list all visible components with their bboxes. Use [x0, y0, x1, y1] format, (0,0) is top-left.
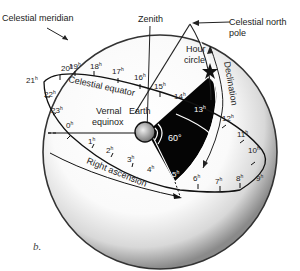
hour-circle-label-2: circle — [184, 55, 205, 65]
svg-text:21h: 21h — [26, 75, 38, 85]
figure-caption: b. — [33, 240, 41, 252]
earth-label: Earth — [129, 106, 151, 116]
zenith-label: Zenith — [138, 14, 163, 24]
celestial-north-pole-label: Celestial north — [229, 17, 287, 27]
angle-label: 60° — [168, 133, 182, 143]
hour-circle-label: Hour — [186, 44, 206, 54]
svg-text:22h: 22h — [44, 89, 56, 99]
vernal-equinox-label: Vernal — [96, 106, 122, 116]
celestial-meridian-label: Celestial meridian — [2, 13, 74, 23]
celestial-sphere-diagram: Celestial meridian Zenith Celestial nort… — [0, 0, 300, 271]
vernal-equinox-label-2: equinox — [92, 117, 124, 127]
celestial-north-pole-label-2: pole — [229, 28, 246, 38]
